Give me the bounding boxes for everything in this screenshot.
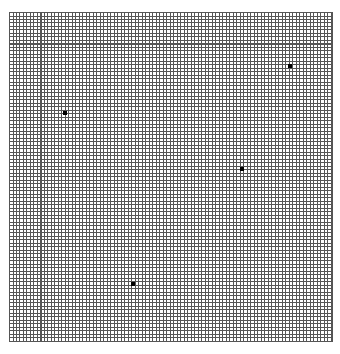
grid-dot[interactable] (240, 167, 244, 171)
grid-dot[interactable] (63, 111, 67, 115)
grid-dot[interactable] (131, 282, 135, 286)
grid-board[interactable] (9, 12, 333, 342)
grid-dot[interactable] (288, 64, 292, 68)
